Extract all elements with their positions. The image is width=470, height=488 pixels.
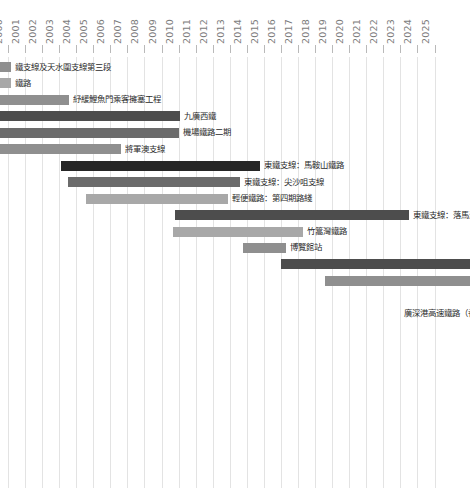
gantt-bar[interactable] <box>61 161 261 171</box>
axis-year-label-text: 2014 <box>232 19 243 44</box>
axis-tick-2014 <box>247 45 248 53</box>
gridline-2005 <box>93 57 94 488</box>
gridline-2023 <box>400 57 401 488</box>
gantt-bar-label: 輕便鐵路：第四期路綫 <box>232 193 312 204</box>
axis-tick-2008 <box>144 45 145 53</box>
axis-tick-2007 <box>127 45 128 53</box>
axis-tick-2022 <box>383 45 384 53</box>
axis-year-label-text: 2022 <box>368 19 379 44</box>
gridline-2024 <box>417 57 418 488</box>
gantt-bar[interactable] <box>0 62 11 72</box>
gantt-bar[interactable] <box>281 259 470 269</box>
gantt-bar-label: 鐵路 <box>15 78 31 89</box>
gridline-2001 <box>25 57 26 488</box>
gantt-bar-label: 竹篙灣鐵路 <box>307 226 347 237</box>
gridline-2007 <box>127 57 128 488</box>
gridline-2000 <box>8 57 9 488</box>
gantt-bar[interactable] <box>243 243 286 253</box>
gantt-bar[interactable] <box>0 95 69 105</box>
axis-year-label-text: 2012 <box>198 19 209 44</box>
gantt-bar-label: 將軍澳支線 <box>125 144 165 155</box>
gridline-2017 <box>298 57 299 488</box>
gridline-2014 <box>247 57 248 488</box>
axis-tick-2005 <box>93 45 94 53</box>
gantt-bar[interactable] <box>0 78 11 88</box>
axis-year-label-text: 2015 <box>249 19 260 44</box>
gantt-bar[interactable] <box>0 111 180 121</box>
axis-tick-2024 <box>417 45 418 53</box>
axis-year-label-text: 2021 <box>351 19 362 44</box>
gridline-2002 <box>42 57 43 488</box>
axis-year-label-text: 2010 <box>164 19 175 44</box>
gantt-bar[interactable] <box>173 227 303 237</box>
gridline-2008 <box>144 57 145 488</box>
axis-tick-2023 <box>400 45 401 53</box>
gridline-2006 <box>110 57 111 488</box>
axis-year-label-text: 2000 <box>0 19 4 44</box>
gantt-bar[interactable] <box>68 177 240 187</box>
gantt-bar[interactable] <box>86 194 228 204</box>
gantt-bar[interactable] <box>0 144 121 154</box>
axis-tick-2025 <box>435 45 436 53</box>
axis-year-label-text: 2008 <box>129 19 140 44</box>
axis-year-label-text: 2023 <box>385 19 396 44</box>
gantt-bar-label: 東鐵支線：尖沙咀支線 <box>244 177 324 188</box>
gridline-2009 <box>162 57 163 488</box>
axis-year-label-text: 2016 <box>266 19 277 44</box>
axis-year-label-text: 2019 <box>317 19 328 44</box>
gantt-bar-label: 東鐵支線：馬鞍山鐵路 <box>264 160 344 171</box>
gridline-2020 <box>349 57 350 488</box>
gridline-2004 <box>76 57 77 488</box>
axis-tick-2013 <box>230 45 231 53</box>
axis-year-label-text: 2017 <box>283 19 294 44</box>
axis-year-label-text: 2007 <box>112 19 123 44</box>
gridline-2003 <box>59 57 60 488</box>
axis-tick-2003 <box>59 45 60 53</box>
gantt-bar[interactable] <box>0 128 179 138</box>
axis-year-label-text: 2011 <box>181 19 192 44</box>
axis-year-label-text: 2003 <box>44 19 55 44</box>
gantt-bar[interactable] <box>175 210 409 220</box>
axis-tick-2012 <box>213 45 214 53</box>
gantt-bar-label: 機場鐵路二期 <box>183 127 231 138</box>
axis-tick-2000 <box>8 45 9 53</box>
axis-year-label-text: 2018 <box>300 19 311 44</box>
axis-year-label-text: 2009 <box>147 19 158 44</box>
axis-year-label-text: 2002 <box>27 19 38 44</box>
axis-tick-2001 <box>25 45 26 53</box>
axis-tick-2006 <box>110 45 111 53</box>
axis-tick-2018 <box>315 45 316 53</box>
gantt-bar-label: 東鐵支線：落馬洲支線 <box>413 210 470 221</box>
gridline-2015 <box>264 57 265 488</box>
axis-year-label-text: 2025 <box>420 19 431 44</box>
axis-tick-2021 <box>366 45 367 53</box>
gridline-2010 <box>179 57 180 488</box>
gantt-bar-label: 紓緩鯉魚門乘客擁塞工程 <box>73 94 161 105</box>
gridline-2022 <box>383 57 384 488</box>
axis-year-label-text: 2006 <box>95 19 106 44</box>
gantt-bar-label: 鐵支線及天水圍支線第三段 <box>15 62 111 73</box>
axis-tick-2004 <box>76 45 77 53</box>
gridline-2018 <box>315 57 316 488</box>
gantt-bar[interactable] <box>325 276 470 286</box>
axis-tick-2002 <box>42 45 43 53</box>
axis-tick-2020 <box>349 45 350 53</box>
gantt-bar-label: 廣深港高速鐵路（香港段） <box>404 308 470 319</box>
axis-year-label-text: 2004 <box>61 19 72 44</box>
gridline-2019 <box>332 57 333 488</box>
axis-tick-2019 <box>332 45 333 53</box>
axis-year-label-text: 2001 <box>10 19 21 44</box>
axis-tick-2015 <box>264 45 265 53</box>
axis-tick-2011 <box>196 45 197 53</box>
axis-year-label-2025: 2025 <box>431 0 443 44</box>
axis-year-label-text: 2013 <box>215 19 226 44</box>
axis-tick-2009 <box>162 45 163 53</box>
axis-year-label-text: 2024 <box>402 19 413 44</box>
gantt-bar-label: 九廣西鐵 <box>184 111 216 122</box>
axis-year-label-text: 2020 <box>334 19 345 44</box>
gantt-chart: 2000200120022003200420052006200720082009… <box>0 0 470 488</box>
axis-year-label-text: 2005 <box>78 19 89 44</box>
axis-tick-2010 <box>179 45 180 53</box>
gantt-bar-label: 博覽館站 <box>290 242 322 253</box>
gridline-2025 <box>435 57 436 488</box>
